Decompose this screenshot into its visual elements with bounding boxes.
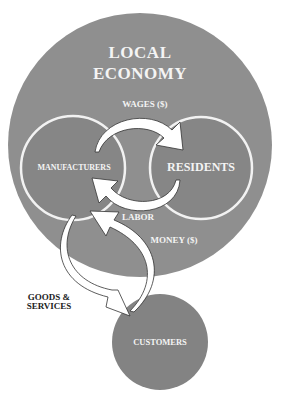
labor-label: LABOR bbox=[113, 213, 163, 222]
title-line-2: ECONOMY bbox=[80, 63, 200, 84]
customers-label: CUSTOMERS bbox=[115, 338, 205, 347]
goods-services-label: GOODS & SERVICES bbox=[18, 293, 80, 311]
diagram-title: LOCAL ECONOMY bbox=[80, 42, 200, 84]
goods-label-line-2: SERVICES bbox=[18, 302, 80, 311]
money-label: MONEY ($) bbox=[143, 236, 205, 245]
title-line-1: LOCAL bbox=[80, 42, 200, 63]
local-economy-diagram: LOCAL ECONOMY WAGES ($) MANUFACTURERS RE… bbox=[0, 0, 286, 411]
manufacturers-label: MANUFACTURERS bbox=[25, 164, 123, 172]
wages-label: WAGES ($) bbox=[110, 100, 180, 109]
residents-label: RESIDENTS bbox=[152, 161, 250, 173]
